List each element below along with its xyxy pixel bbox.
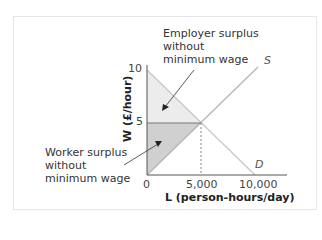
x-axis-title: L (person-hours/day) <box>165 191 295 204</box>
y-tick-5: 5 <box>136 115 143 128</box>
demand-label: D <box>255 158 263 171</box>
worker-label-line3: minimum wage <box>45 172 130 185</box>
x-tick-5000: 5,000 <box>186 178 218 191</box>
employer-surplus-label: Employer surplus without minimum wage <box>163 27 259 66</box>
y-axis-title: W (£/hour) <box>121 76 134 142</box>
y-tick-10: 10 <box>128 62 142 75</box>
x-tick-0: 0 <box>143 178 150 191</box>
employer-label-line1: Employer surplus <box>163 27 259 40</box>
supply-label: S <box>264 54 271 67</box>
worker-label-line1: Worker surplus <box>45 146 130 159</box>
worker-surplus-label: Worker surplus without minimum wage <box>45 146 130 185</box>
employer-label-line3: minimum wage <box>163 53 259 66</box>
x-tick-10000: 10,000 <box>239 178 278 191</box>
worker-label-line2: without <box>45 159 130 172</box>
employer-label-line2: without <box>163 40 259 53</box>
